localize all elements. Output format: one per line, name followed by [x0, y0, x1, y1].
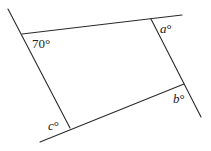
left-line [8, 9, 70, 128]
angle-label-c: c° [48, 118, 59, 133]
top-line [22, 15, 182, 34]
angle-label-a: a° [160, 21, 172, 36]
angle-label-70: 70° [32, 36, 50, 51]
angle-label-b: b° [173, 91, 185, 106]
quadrilateral-diagram: 70° a° b° c° [0, 0, 211, 151]
